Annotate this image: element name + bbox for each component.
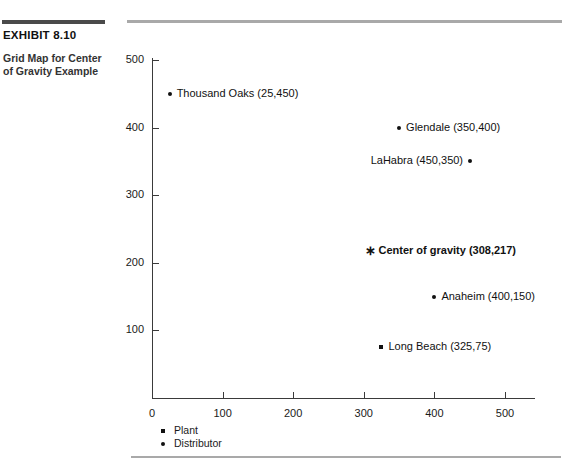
x-tick-100 xyxy=(223,392,224,399)
point-label-anaheim: Anaheim (400,150) xyxy=(441,290,535,302)
x-tick-label-100: 100 xyxy=(203,407,243,419)
y-tick-400 xyxy=(152,128,159,129)
x-tick-label-0: 0 xyxy=(132,407,172,419)
x-tick-500 xyxy=(505,392,506,399)
legend-item-distributor: Distributor xyxy=(160,437,222,450)
point-label-glendale: Glendale (350,400) xyxy=(406,121,500,133)
x-tick-300 xyxy=(364,392,365,399)
x-axis-line xyxy=(152,398,535,399)
legend-item-plant: Plant xyxy=(160,424,222,437)
y-tick-300 xyxy=(152,195,159,196)
y-tick-100 xyxy=(152,330,159,331)
marker-dot-thousand-oaks xyxy=(168,92,172,96)
x-tick-label-400: 400 xyxy=(414,407,454,419)
x-tick-label-200: 200 xyxy=(273,407,313,419)
chart-legend: Plant Distributor xyxy=(160,424,222,450)
point-label-long-beach: Long Beach (325,75) xyxy=(388,340,491,352)
point-label-center-of-gravity: Center of gravity (308,217) xyxy=(378,244,516,256)
marker-dot-lahabra xyxy=(468,159,472,163)
x-tick-label-500: 500 xyxy=(485,407,525,419)
marker-dot-glendale xyxy=(397,126,401,130)
marker-star-center-of-gravity: ∗ xyxy=(365,247,376,255)
y-tick-label-400: 400 xyxy=(108,121,144,133)
x-tick-200 xyxy=(293,392,294,399)
scatter-chart: 1002003004005000100200300400500 Thousand… xyxy=(0,0,565,476)
legend-label-plant: Plant xyxy=(174,424,198,436)
marker-square-long-beach xyxy=(379,345,383,349)
y-tick-label-100: 100 xyxy=(108,323,144,335)
plant-square-icon xyxy=(161,429,165,433)
y-tick-500 xyxy=(152,60,159,61)
y-tick-label-500: 500 xyxy=(108,53,144,65)
point-label-lahabra: LaHabra (450,350) xyxy=(371,154,463,166)
distributor-dot-icon xyxy=(161,442,165,446)
y-axis-line xyxy=(152,58,153,399)
legend-label-distributor: Distributor xyxy=(174,437,222,449)
y-tick-label-300: 300 xyxy=(108,188,144,200)
point-label-thousand-oaks: Thousand Oaks (25,450) xyxy=(177,87,299,99)
y-tick-label-200: 200 xyxy=(108,256,144,268)
marker-dot-anaheim xyxy=(432,295,436,299)
y-tick-200 xyxy=(152,263,159,264)
x-tick-400 xyxy=(434,392,435,399)
x-tick-label-300: 300 xyxy=(344,407,384,419)
